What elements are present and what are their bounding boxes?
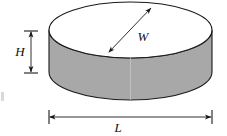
height-dimension-group: H (14, 31, 38, 73)
width-label: W (138, 29, 150, 44)
cylinder-diagram: H W L (0, 0, 227, 136)
figure-container: H W L (0, 0, 227, 136)
length-dimension-group: L (49, 110, 212, 135)
length-label: L (113, 120, 121, 135)
height-label: H (14, 44, 25, 59)
